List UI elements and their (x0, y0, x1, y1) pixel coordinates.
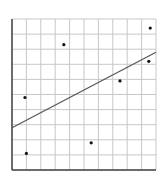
data-point (25, 152, 28, 155)
scatter-plot (0, 0, 166, 177)
data-point (147, 60, 150, 63)
data-point (118, 79, 121, 82)
data-point (149, 26, 152, 29)
grid-lines (12, 19, 156, 170)
data-points (23, 26, 151, 155)
data-point (90, 141, 93, 144)
data-point (62, 43, 65, 46)
data-point (23, 96, 26, 99)
